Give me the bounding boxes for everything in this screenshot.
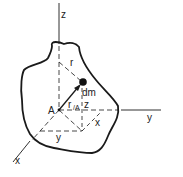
mass-element-dot xyxy=(79,78,87,86)
x-axis-dashed xyxy=(32,110,59,140)
position-vector-subscript: /A xyxy=(73,104,80,111)
position-vector-label: r xyxy=(68,99,72,110)
y-axis-label: y xyxy=(147,112,152,123)
x-component-label: x xyxy=(95,117,100,128)
origin-label: A xyxy=(48,105,55,116)
z-component-label: z xyxy=(84,99,89,110)
rigid-body-diagram: z y x A dm r r /A z x y xyxy=(0,0,183,177)
diagonal-projection-dashed xyxy=(59,110,82,131)
x-axis-label: x xyxy=(15,155,20,166)
mass-element-label: dm xyxy=(82,87,96,98)
z-axis-label: z xyxy=(61,9,66,20)
origin-point xyxy=(58,109,61,112)
radius-label: r xyxy=(70,57,74,68)
y-component-label: y xyxy=(56,132,61,143)
